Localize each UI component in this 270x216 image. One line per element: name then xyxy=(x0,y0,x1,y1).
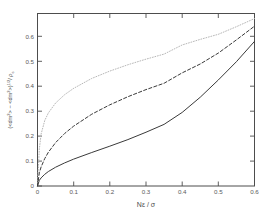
y-ticklabel-4: 0.4 xyxy=(25,82,34,89)
x-ticklabel-5: 0.5 xyxy=(214,188,223,195)
x-ticklabel-6: 0.6 xyxy=(250,188,259,195)
y-ticklabel-1: 0.1 xyxy=(25,157,34,164)
y-ticklabel-0: 0 xyxy=(31,182,35,189)
svg-text:(<dm2> − <dm2>)1/2/ ρc: (<dm2> − <dm2>)1/2/ ρc xyxy=(6,71,15,128)
y-axis-title: (<dm2> − <dm2>)1/2/ ρc xyxy=(6,71,15,128)
y-ticklabel-3: 0.3 xyxy=(25,107,34,114)
x-ticklabel-2: 0.2 xyxy=(105,188,114,195)
y-title-p2: > − <dm xyxy=(7,92,13,113)
x-axis-ticks xyxy=(38,182,255,187)
dashed-curve xyxy=(38,26,255,186)
y-ticklabel-6: 0.6 xyxy=(25,33,34,40)
y-title-p4sub: c xyxy=(10,71,15,73)
x-ticklabel-1: 0.1 xyxy=(69,188,78,195)
x-ticklabel-4: 0.4 xyxy=(178,188,187,195)
y-axis-ticks-right xyxy=(250,36,255,161)
x-axis-title: Nε / σ xyxy=(137,201,156,208)
x-axis-ticks-top xyxy=(74,14,219,19)
y-ticklabel-2: 0.2 xyxy=(25,132,34,139)
data-curves xyxy=(38,19,255,186)
x-ticklabel-0: 0 xyxy=(36,188,40,195)
y-ticklabel-5: 0.5 xyxy=(25,58,34,65)
y-axis-ticks xyxy=(38,36,43,186)
solid-curve xyxy=(38,41,255,186)
y-title-p1: (<dm xyxy=(7,115,13,128)
x-ticklabel-3: 0.3 xyxy=(142,188,151,195)
figure-canvas: 0 0.1 0.2 0.3 0.4 0.5 0.6 0 0.1 0.2 0.3 … xyxy=(0,0,270,216)
